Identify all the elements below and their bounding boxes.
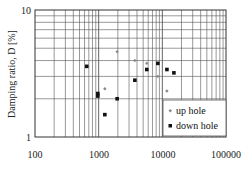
up-hole-point	[156, 75, 159, 78]
up-hole-point	[133, 59, 136, 62]
y-tick-10: 10	[21, 5, 31, 16]
x-tick-100000: 100000	[211, 149, 241, 160]
x-tick-10000: 10000	[151, 149, 176, 160]
up-hole-point	[165, 89, 168, 92]
legend-up-hole: up hole	[176, 105, 206, 116]
down-hole-point	[115, 97, 119, 101]
y-tick-1: 1	[26, 132, 31, 143]
down-hole-point	[96, 94, 100, 98]
up-hole-point	[103, 87, 106, 90]
up-hole-point	[115, 50, 118, 53]
down-hole-point	[103, 113, 107, 117]
y-axis-label: Damping ratio, D [%]	[6, 30, 17, 118]
x-tick-1000: 1000	[89, 149, 109, 160]
down-hole-point	[156, 62, 160, 66]
damping-ratio-chart: 10 1 100 1000 10000 100000 Damping ratio…	[0, 0, 246, 170]
x-tick-100: 100	[28, 149, 43, 160]
legend: up hole down hole	[163, 100, 226, 136]
down-hole-point	[145, 68, 149, 72]
down-hole-marker-icon	[169, 124, 173, 128]
down-hole-point	[172, 71, 176, 75]
down-hole-point	[165, 68, 169, 72]
down-hole-point	[85, 65, 89, 69]
legend-down-hole: down hole	[176, 120, 219, 131]
down-hole-point	[133, 78, 137, 82]
